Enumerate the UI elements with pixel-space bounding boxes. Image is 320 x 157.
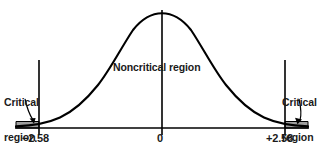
x-tick-label-right: +2.58 (266, 132, 293, 144)
noncritical-region-label: Noncritical region (113, 62, 200, 74)
normal-curve-figure: Noncritical region Critical region Criti… (0, 0, 320, 157)
critical-region-left-label: Critical region (4, 73, 39, 157)
critical-region-right-label-line1: Critical (282, 97, 317, 109)
x-tick-label-left: −2.58 (22, 132, 49, 144)
critical-region-left-label-line1: Critical (4, 97, 39, 109)
x-tick-label-center: 0 (157, 132, 163, 144)
critical-region-right-label: Critical region (282, 73, 317, 157)
